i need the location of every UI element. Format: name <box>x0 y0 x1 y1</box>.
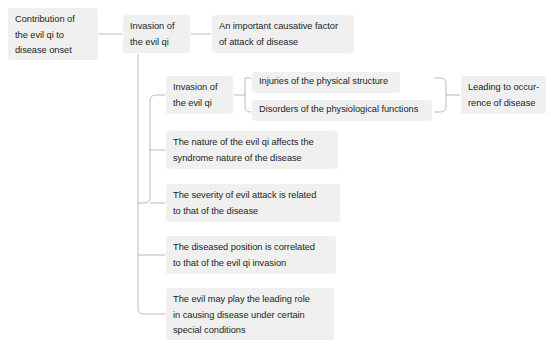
node-leading-occurrence: Leading to occur- rence of disease <box>461 76 546 114</box>
node-injuries-physical: Injuries of the physical structure <box>252 72 400 93</box>
node-invasion-main: Invasion of the evil qi <box>123 15 190 53</box>
node-invasion-sub: Invasion of the evil qi <box>166 76 233 114</box>
node-disorders-physiological: Disorders of the physiological functions <box>252 100 432 121</box>
connector-inner-bracket <box>138 95 165 203</box>
flowchart-diagram: Contribution of the evil qi to disease o… <box>0 0 551 348</box>
connector-right-bracket-close <box>434 78 446 112</box>
node-severity-related: The severity of evil attack is related t… <box>166 184 340 222</box>
node-position-correlated: The diseased position is correlated to t… <box>166 236 336 274</box>
connector-right-bracket-open <box>245 78 251 112</box>
node-nature-affects: The nature of the evil qi affects the sy… <box>166 131 338 169</box>
node-leading-role: The evil may play the leading role in ca… <box>166 288 334 340</box>
connector-main-spine <box>138 54 165 314</box>
node-causative-factor: An important causative factor of attack … <box>212 15 354 53</box>
node-root: Contribution of the evil qi to disease o… <box>8 8 98 60</box>
